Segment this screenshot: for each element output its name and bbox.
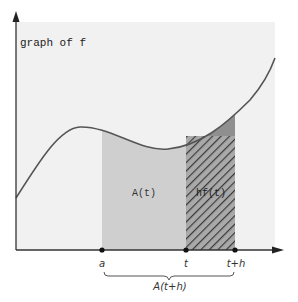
graph-title: graph of f [20,37,86,49]
area-function-diagram: graph of f A(t) hf(t) a t t+h A(t+h) [0,0,298,302]
area-label: A(t) [132,188,156,199]
x-label-t-plus-h: t+h [227,258,246,269]
point-t-plus-h [232,247,237,252]
x-axis-arrow-icon [272,247,284,254]
point-t [183,247,188,252]
point-a [99,247,104,252]
brace-a-to-t-plus-h [104,272,234,280]
y-axis-arrow-icon [13,11,20,22]
x-label-t: t [184,258,189,269]
x-label-a: a [99,258,105,269]
brace-label: A(t+h) [152,281,186,292]
strip-label: hf(t) [196,188,226,199]
